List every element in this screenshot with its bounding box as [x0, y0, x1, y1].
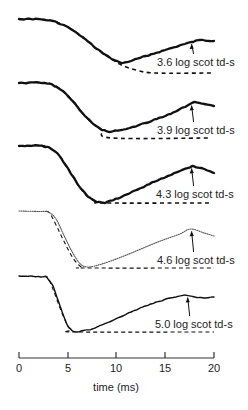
x-tick-label-10: 10 — [110, 362, 122, 374]
x-axis-title: time (ms) — [93, 381, 139, 393]
x-tick-label-5: 5 — [65, 362, 71, 374]
arrow-head-icon — [186, 298, 190, 303]
arrow-head-icon — [190, 231, 194, 236]
chart-figure: 3.6 log scot td-s 3.9 log scot td-s 4.3 … — [0, 0, 248, 410]
trace-label-1: 3.6 log scot td-s — [157, 56, 235, 68]
x-tick-label-20: 20 — [208, 362, 220, 374]
x-axis: 0 5 10 15 20 time (ms) — [16, 352, 220, 393]
arrow-head-icon — [190, 168, 194, 173]
arrow-head-icon — [190, 44, 194, 49]
arrow-head-icon — [190, 106, 194, 111]
trace-label-5: 5.0 log scot td-s — [155, 318, 233, 330]
x-tick-label-0: 0 — [16, 362, 22, 374]
trace-label-4: 4.6 log scot td-s — [157, 254, 235, 266]
annotations-group: 3.6 log scot td-s 3.9 log scot td-s 4.3 … — [155, 56, 235, 330]
x-tick-label-15: 15 — [159, 362, 171, 374]
trace-label-3: 4.3 log scot td-s — [156, 188, 234, 200]
trace-label-2: 3.9 log scot td-s — [157, 124, 235, 136]
